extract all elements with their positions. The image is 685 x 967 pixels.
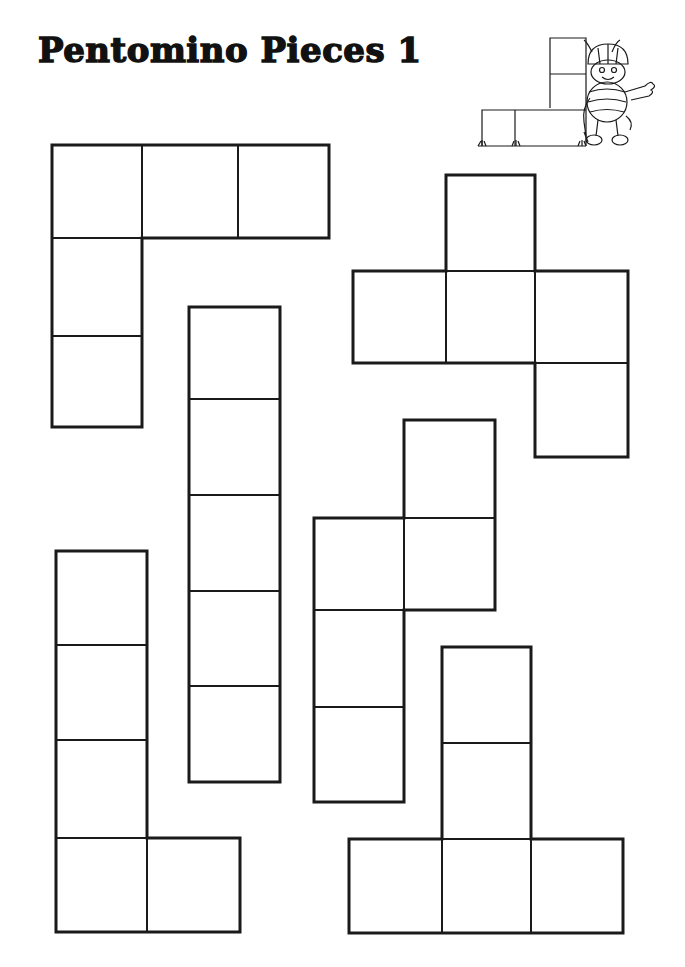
piece-cell <box>442 839 531 933</box>
piece-cell <box>56 645 147 740</box>
piece-cell <box>189 399 280 495</box>
page-title: Pentomino Pieces 1 <box>38 30 422 70</box>
piece-cell <box>238 145 329 238</box>
piece-cell <box>189 686 280 782</box>
piece-cell <box>535 271 628 363</box>
piece-cell <box>52 238 142 336</box>
piece-cell <box>446 271 535 363</box>
piece-cell <box>404 518 495 610</box>
piece-cell <box>442 647 531 743</box>
bee-mascot-illustration <box>470 30 660 160</box>
piece-cell <box>56 838 147 932</box>
piece-cell <box>531 839 623 933</box>
piece-cell <box>189 495 280 591</box>
piece-cell <box>404 420 495 518</box>
piece-cell <box>56 740 147 838</box>
piece-cell <box>147 838 240 932</box>
piece-cell <box>52 145 142 238</box>
piece-cell <box>353 271 446 363</box>
piece-cell <box>446 175 535 271</box>
piece-cell <box>535 363 628 457</box>
piece-cell <box>314 518 404 610</box>
piece-cell <box>52 336 142 427</box>
piece-cell <box>314 610 404 707</box>
piece-cell <box>442 743 531 839</box>
piece-cell <box>142 145 238 238</box>
piece-cell <box>56 551 147 645</box>
piece-cell <box>189 591 280 686</box>
piece-cell <box>189 307 280 399</box>
piece-cell <box>349 839 442 933</box>
piece-cell <box>314 707 404 802</box>
bee-builder-icon <box>470 30 660 160</box>
